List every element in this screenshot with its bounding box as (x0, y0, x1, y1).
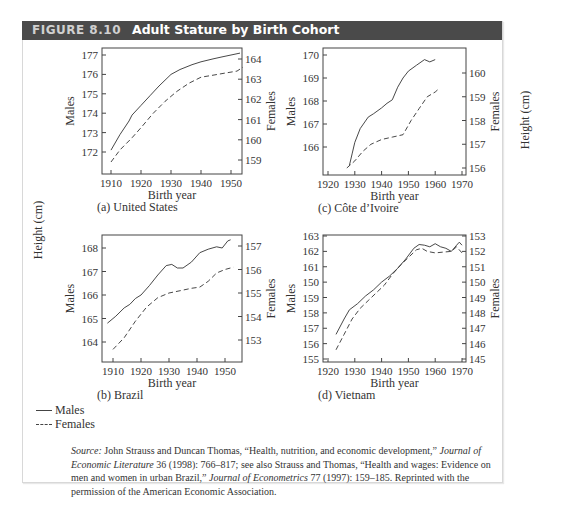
x-tick-label: 1970 (451, 365, 474, 377)
y-right-axis-label: Females (264, 91, 278, 131)
panel-brazil: 19101920193019401950Birth year(b) Brazil… (63, 235, 278, 402)
x-tick-label: 1910 (100, 177, 123, 189)
source-journal-2: Journal of Econometrics (209, 472, 308, 483)
y-left-tick-label: 159 (303, 292, 320, 304)
y-left-tick-label: 150 (303, 276, 320, 288)
y-left-tick-label: 172 (82, 146, 99, 158)
plot-frame (102, 48, 242, 174)
y-left-tick-label: 164 (82, 336, 99, 348)
y-left-tick-label: 174 (82, 107, 99, 119)
y-right-tick-label: 160 (245, 134, 262, 146)
series-males-line (336, 242, 462, 334)
x-tick-label: 1910 (102, 365, 125, 377)
x-tick-label: 1930 (344, 365, 367, 377)
y-right-tick-label: 145 (469, 353, 486, 365)
series-females-line (336, 247, 462, 350)
panel-united-states: 19101920193019401950Birth year(a) United… (63, 48, 278, 214)
y-right-tick-label: 158 (469, 115, 486, 127)
y-right-tick-label: 153 (469, 230, 486, 242)
y-right-tick-label: 150 (469, 276, 486, 288)
y-right-tick-label: 164 (245, 53, 262, 65)
y-left-tick-label: 167 (303, 118, 320, 130)
x-tick-label: 1920 (317, 365, 340, 377)
y-right-axis-label: Females (488, 278, 502, 318)
y-right-tick-label: 157 (245, 240, 262, 252)
y-left-tick-label: 176 (82, 68, 99, 80)
panel-label: (a) United States (97, 200, 178, 214)
shared-ylabel-left: Height (cm) (31, 201, 45, 259)
series-females-line (113, 267, 233, 349)
panel-label: (c) Côte d’Ivoire (318, 201, 399, 215)
y-left-axis-label: Males (284, 97, 298, 127)
shared-ylabel-right: Height (cm) (518, 91, 532, 149)
y-right-tick-label: 146 (469, 338, 486, 350)
y-left-tick-label: 169 (303, 72, 320, 84)
y-left-tick-label: 165 (82, 313, 99, 325)
y-right-tick-label: 160 (469, 67, 486, 79)
y-left-tick-label: 162 (303, 245, 320, 257)
y-right-tick-label: 148 (469, 307, 486, 319)
y-left-tick-label: 157 (303, 322, 320, 334)
y-right-tick-label: 159 (469, 91, 486, 103)
y-left-tick-label: 168 (303, 95, 320, 107)
y-right-tick-label: 154 (245, 311, 262, 323)
y-left-tick-label: 155 (303, 353, 320, 365)
panel-vietnam: 192019301940195019601970Birth year(d) Vi… (284, 230, 502, 402)
x-tick-label: 1920 (317, 178, 340, 190)
series-males-line (107, 240, 230, 323)
y-right-tick-label: 147 (469, 322, 486, 334)
plot-frame (102, 235, 242, 362)
y-right-tick-label: 152 (469, 245, 486, 257)
dashed-line-icon (36, 424, 52, 425)
y-left-tick-label: 163 (303, 230, 320, 242)
y-right-axis-label: Females (488, 91, 502, 131)
legend-item-males: Males (36, 403, 95, 417)
y-left-tick-label: 173 (82, 127, 99, 139)
y-left-axis-label: Males (63, 96, 77, 126)
plot-frame (323, 48, 466, 175)
source-text-1: John Strauss and Duncan Thomas, “Health,… (102, 445, 440, 456)
y-left-axis-label: Males (63, 284, 77, 314)
y-left-tick-label: 161 (303, 261, 320, 273)
x-tick-label: 1930 (344, 178, 367, 190)
y-right-tick-label: 151 (469, 261, 486, 273)
plot-frame (323, 235, 466, 362)
y-left-tick-label: 175 (82, 88, 99, 100)
y-right-tick-label: 162 (245, 93, 262, 105)
y-left-tick-label: 166 (82, 289, 99, 301)
legend: Males Females (36, 403, 95, 431)
x-tick-label: 1960 (424, 365, 447, 377)
x-axis-label: Birth year (370, 376, 418, 390)
series-females-line (111, 67, 243, 162)
x-axis-label: Birth year (148, 376, 196, 390)
y-left-axis-label: Males (284, 284, 298, 314)
y-right-tick-label: 156 (469, 162, 486, 174)
y-right-tick-label: 161 (245, 114, 262, 126)
y-right-tick-label: 157 (469, 138, 486, 150)
panel-label: (d) Vietnam (318, 388, 376, 402)
y-right-tick-label: 163 (245, 73, 262, 85)
series-males-line (111, 53, 240, 150)
series-males-line (349, 60, 435, 166)
y-right-tick-label: 153 (245, 334, 262, 346)
y-right-tick-label: 156 (245, 264, 262, 276)
y-left-tick-label: 170 (303, 49, 320, 61)
y-left-tick-label: 167 (82, 266, 99, 278)
panel-cote-divoire: 192019301940195019601970Birth year(c) Cô… (284, 48, 502, 215)
y-right-tick-label: 155 (245, 287, 262, 299)
solid-line-icon (36, 410, 52, 411)
x-tick-label: 1960 (424, 178, 447, 190)
x-tick-label: 1970 (451, 178, 474, 190)
panel-label: (b) Brazil (97, 388, 144, 402)
source-note: Source: John Strauss and Duncan Thomas, … (71, 444, 499, 498)
y-right-tick-label: 149 (469, 292, 486, 304)
x-tick-label: 1950 (220, 177, 243, 189)
legend-label-males: Males (55, 403, 84, 417)
legend-item-females: Females (36, 417, 95, 431)
y-left-tick-label: 177 (82, 49, 99, 61)
y-left-tick-label: 168 (82, 242, 99, 254)
x-tick-label: 1950 (214, 365, 237, 377)
source-label: Source: (71, 445, 102, 456)
y-left-tick-label: 166 (303, 141, 320, 153)
y-right-axis-label: Females (264, 278, 278, 318)
